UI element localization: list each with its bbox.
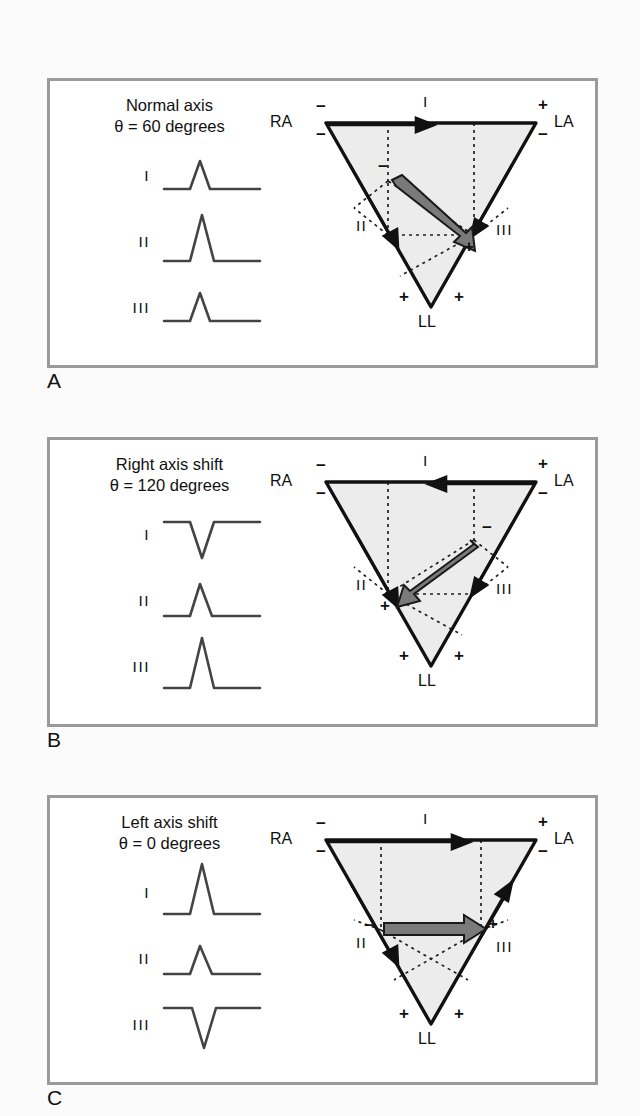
lead-label-3: III — [496, 580, 513, 598]
vector-positive-end-label: + — [464, 237, 474, 257]
panel-letter-c: C — [47, 1086, 63, 1110]
panel-b: Right axis shift θ = 120 degrees I II II… — [47, 437, 598, 727]
waveform-lead-3-icon — [162, 634, 262, 700]
panel-a-waveforms: I II III — [70, 143, 280, 353]
vertex-label-ll: LL — [418, 1030, 436, 1048]
lead-label-1: I — [423, 452, 429, 470]
polarity-la-bottom: − — [538, 484, 548, 504]
vertex-label-ll: LL — [418, 313, 436, 331]
panel-a: Normal axis θ = 60 degrees I II III — [47, 78, 598, 368]
polarity-ll-left: + — [399, 646, 409, 666]
waveform-lead-2-icon — [162, 568, 262, 634]
vector-positive-end-label: + — [380, 596, 390, 616]
polarity-ra-bottom: − — [316, 484, 326, 504]
panel-c-title-line2: θ = 0 degrees — [62, 833, 277, 854]
polarity-ll-right: + — [454, 287, 464, 307]
polarity-la-bottom: − — [538, 125, 548, 145]
panel-a-title-line2: θ = 60 degrees — [62, 116, 277, 137]
panel-b-triangle: RA − − LA + − LL + + I II III − + — [268, 444, 593, 726]
panel-b-title: Right axis shift θ = 120 degrees — [62, 454, 277, 496]
lead-label-3: III — [496, 221, 513, 239]
polarity-ll-right: + — [454, 646, 464, 666]
waveform-label-lead-2: II — [128, 233, 150, 251]
waveform-lead-1-icon — [162, 860, 262, 926]
waveform-row-lead-1: I — [70, 502, 280, 568]
panel-b-title-line2: θ = 120 degrees — [62, 475, 277, 496]
waveform-row-lead-3: III — [70, 275, 280, 341]
vector-negative-end-label: − — [378, 157, 388, 177]
waveform-label-lead-1: I — [128, 526, 150, 544]
polarity-la-top: + — [538, 454, 548, 474]
polarity-ra-top: − — [316, 456, 326, 476]
vertex-label-la: LA — [554, 830, 574, 848]
polarity-la-top: + — [538, 95, 548, 115]
waveform-row-lead-2: II — [70, 926, 280, 992]
panel-c-title: Left axis shift θ = 0 degrees — [62, 812, 277, 854]
waveform-row-lead-3: III — [70, 634, 280, 700]
waveform-label-lead-3: III — [128, 299, 150, 317]
vertex-label-ra: RA — [270, 472, 292, 490]
lead-label-2: II — [356, 217, 367, 235]
waveform-lead-3-icon — [162, 992, 262, 1058]
polarity-ra-top: − — [316, 97, 326, 117]
polarity-ll-left: + — [399, 1004, 409, 1024]
waveform-row-lead-2: II — [70, 209, 280, 275]
lead-label-2: II — [356, 576, 367, 594]
figure-canvas: Normal axis θ = 60 degrees I II III — [0, 0, 640, 1116]
waveform-lead-1-icon — [162, 143, 262, 209]
waveform-lead-1-icon — [162, 502, 262, 568]
polarity-ll-left: + — [399, 287, 409, 307]
vector-negative-end-label: − — [482, 518, 492, 538]
waveform-row-lead-3: III — [70, 992, 280, 1058]
lead-label-1: I — [423, 810, 429, 828]
panel-letter-b: B — [47, 728, 62, 752]
waveform-label-lead-2: II — [128, 950, 150, 968]
lead-label-2: II — [356, 934, 367, 952]
vertex-label-ra: RA — [270, 830, 292, 848]
panel-letter-a: A — [47, 369, 62, 393]
waveform-lead-3-icon — [162, 275, 262, 341]
polarity-la-bottom: − — [538, 842, 548, 862]
vector-positive-end-label: + — [488, 914, 498, 934]
lead-label-1: I — [423, 93, 429, 111]
vector-negative-end-label: − — [364, 916, 374, 936]
waveform-lead-2-icon — [162, 926, 262, 992]
polarity-ra-bottom: − — [316, 125, 326, 145]
panel-a-title-line1: Normal axis — [62, 95, 277, 116]
vertex-label-la: LA — [554, 472, 574, 490]
panel-c-title-line1: Left axis shift — [62, 812, 277, 833]
panel-a-title: Normal axis θ = 60 degrees — [62, 95, 277, 137]
polarity-ll-right: + — [454, 1004, 464, 1024]
waveform-row-lead-1: I — [70, 860, 280, 926]
waveform-lead-2-icon — [162, 209, 262, 275]
panel-a-triangle: RA − − LA + − LL + + I II III − + — [268, 85, 593, 367]
panel-c: Left axis shift θ = 0 degrees I II III — [47, 795, 598, 1085]
waveform-label-lead-3: III — [128, 658, 150, 676]
panel-b-title-line1: Right axis shift — [62, 454, 277, 475]
panel-c-waveforms: I II III — [70, 860, 280, 1070]
lead-label-3: III — [496, 938, 513, 956]
waveform-label-lead-1: I — [128, 167, 150, 185]
waveform-label-lead-3: III — [128, 1016, 150, 1034]
waveform-label-lead-2: II — [128, 592, 150, 610]
vertex-label-ra: RA — [270, 113, 292, 131]
panel-c-triangle: RA − − LA + − LL + + I II III − + — [268, 802, 593, 1084]
waveform-row-lead-1: I — [70, 143, 280, 209]
vertex-label-la: LA — [554, 113, 574, 131]
polarity-la-top: + — [538, 812, 548, 832]
waveform-row-lead-2: II — [70, 568, 280, 634]
vertex-label-ll: LL — [418, 672, 436, 690]
polarity-ra-top: − — [316, 814, 326, 834]
panel-b-waveforms: I II III — [70, 502, 280, 712]
polarity-ra-bottom: − — [316, 842, 326, 862]
waveform-label-lead-1: I — [128, 884, 150, 902]
